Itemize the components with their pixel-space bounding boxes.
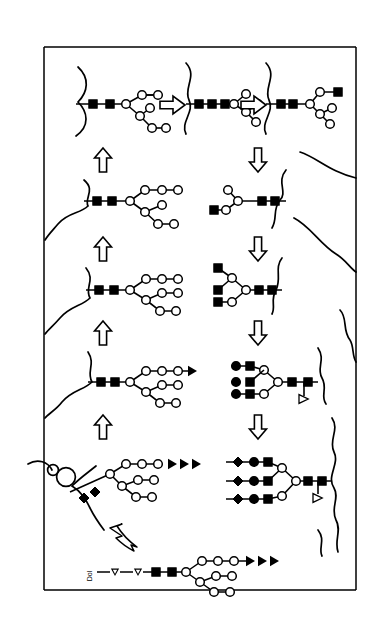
sym-open-circle: [228, 572, 237, 581]
sym-filled-circle: [232, 362, 241, 371]
sym-phosphate-triangle: [112, 569, 118, 575]
sym-open-circle: [326, 120, 335, 129]
membrane-wavy-r4c1: [45, 352, 92, 418]
glycan-r1c3: [266, 88, 342, 129]
sym-open-circle: [138, 91, 147, 100]
sym-open-circle: [230, 100, 239, 109]
sym-filled-circle: [250, 495, 259, 504]
sym-open-circle: [226, 588, 235, 597]
membrane-wavy-r1c3: [265, 63, 271, 134]
sym-filled-square: [214, 286, 222, 294]
sym-open-circle: [142, 296, 151, 305]
sym-open-circle: [242, 90, 251, 99]
sym-open-circle: [148, 124, 157, 133]
sym-open-circle: [212, 572, 221, 581]
sym-open-circle: [122, 100, 131, 109]
sym-filled-square: [214, 298, 222, 306]
sym-open-circle: [306, 100, 315, 109]
glycan-r2c1: [84, 186, 182, 229]
curved-step-arrow: [110, 524, 137, 551]
membrane-wavy-r4c2: [318, 348, 326, 404]
sym-open-circle: [118, 482, 127, 491]
sym-open-circle: [316, 110, 325, 119]
sym-filled-square: [97, 378, 105, 386]
sym-open-circle: [106, 470, 115, 479]
sym-open-circle: [148, 493, 157, 502]
sym-filled-square: [288, 378, 296, 386]
sym-open-circle: [158, 289, 167, 298]
step-arrow-up-4: [95, 415, 112, 439]
step-arrow-up-2: [95, 237, 112, 261]
sym-filled-arrowhead: [192, 459, 201, 469]
sym-open-circle: [150, 476, 159, 485]
sym-open-circle: [234, 197, 243, 206]
sym-filled-arrowhead: [188, 366, 197, 376]
glycan-pathway-figure: Dol: [0, 0, 383, 618]
sym-open-circle: [292, 477, 301, 486]
sym-filled-arrowhead: [180, 459, 189, 469]
glycan-r2c2: [210, 186, 286, 215]
sym-open-circle: [141, 186, 150, 195]
sym-open-circle: [214, 557, 223, 566]
sym-filled-square: [208, 100, 216, 108]
membrane-golgi-lower-right: [340, 310, 356, 362]
sym-open-circle: [274, 378, 283, 387]
sym-open-circle: [278, 464, 287, 473]
membrane-wavy-r6c2: [318, 530, 322, 556]
sym-open-circle: [328, 104, 337, 113]
membrane-golgi-mid-right: [294, 218, 356, 272]
sym-open-circle: [154, 91, 163, 100]
sym-open-circle: [141, 208, 150, 217]
sym-open-circle: [154, 460, 163, 469]
sym-open-circle: [132, 493, 141, 502]
glycan-r5c2: [226, 457, 332, 504]
sym-filled-arrowhead: [270, 556, 279, 566]
sym-open-circle: [142, 275, 151, 284]
step-arrow-up-1: [95, 148, 112, 172]
sym-open-circle: [170, 220, 179, 229]
membrane-wavy-r1c2: [185, 63, 191, 134]
sym-open-circle: [242, 286, 251, 295]
sym-open-circle: [228, 298, 237, 307]
glycan-r1c1: [76, 91, 170, 133]
sym-open-circle: [260, 390, 269, 399]
sym-filled-square: [304, 378, 312, 386]
sym-filled-square: [106, 100, 114, 108]
glycan-r4c2: [232, 362, 318, 404]
sym-open-circle: [126, 286, 135, 295]
sym-open-circle: [158, 186, 167, 195]
sym-open-circle: [158, 381, 167, 390]
step-arrow-down-1: [250, 148, 267, 172]
glycan-r4c1: [88, 366, 197, 408]
sym-open-circle: [126, 378, 135, 387]
glycan-r5c1: [70, 459, 201, 503]
sym-open-circle: [174, 381, 183, 390]
membrane-golgi-upper-right: [300, 152, 356, 178]
membrane-wavy-r3c1: [45, 268, 90, 334]
sym-filled-square: [246, 390, 254, 398]
sym-filled-circle: [250, 477, 259, 486]
sym-filled-square: [95, 286, 103, 294]
membrane-wavy-r1c1: [76, 67, 86, 136]
sym-filled-square: [108, 197, 116, 205]
sym-open-circle: [278, 492, 287, 501]
sym-open-circle: [196, 578, 205, 587]
sym-open-circle: [156, 307, 165, 316]
sym-filled-arrowhead: [168, 459, 177, 469]
sym-filled-square: [318, 477, 326, 485]
sym-open-circle: [134, 476, 143, 485]
sym-open-circle: [154, 220, 163, 229]
sym-filled-square: [277, 100, 285, 108]
sym-phosphate-triangle: [135, 569, 141, 575]
sym-open-circle: [158, 367, 167, 376]
sym-open-circle: [156, 399, 165, 408]
sym-filled-diamond: [233, 494, 243, 504]
sym-open-circle: [174, 367, 183, 376]
glycan-r3c1: [86, 275, 182, 316]
sym-filled-circle: [232, 390, 241, 399]
sym-filled-square: [246, 362, 254, 370]
sym-open-circle: [252, 118, 261, 127]
sym-open-circle: [222, 206, 231, 215]
sym-open-circle: [224, 186, 233, 195]
sym-filled-square: [168, 568, 176, 576]
